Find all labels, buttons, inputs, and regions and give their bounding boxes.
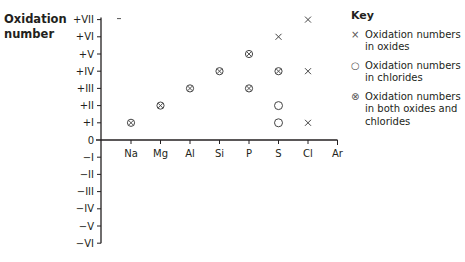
legend-item-chlorides: ○ Oxidation numbers in chlorides [351,60,465,85]
legend-label: Oxidation numbers in oxides [365,29,461,53]
y-tick-label: +V [79,49,94,60]
x-tick-label-na: Na [124,148,138,159]
circle-marker [275,102,283,110]
legend-title: Key [351,10,465,23]
y-tick-label: +VII [73,14,94,25]
y-tick-label: −V [79,221,94,232]
legend-item-both: ⊗ Oxidation numbers in both oxides and c… [351,91,465,129]
y-tick-label: −II [80,169,94,180]
x-tick-label-s: S [275,148,281,159]
legend-item-oxides: × Oxidation numbers in oxides [351,29,465,54]
legend-label: Oxidation numbers in chlorides [365,60,461,84]
x-tick-label-mg: Mg [153,148,168,159]
y-tick-label: −I [83,152,94,163]
legend-label: Oxidation numbers in both oxides and chl… [365,91,461,127]
x-tick-label-ar: Ar [332,148,344,159]
y-tick-label: +III [77,83,94,94]
x-tick-label-al: Al [185,148,195,159]
y-tick-label: −IV [76,203,94,214]
cross-marker-icon: × [351,29,363,42]
y-tick-label: +VI [76,31,94,42]
x-tick-label-si: Si [215,148,224,159]
x-tick-label-p: P [246,148,252,159]
y-tick-label: −III [77,186,94,197]
y-tick-label: +I [83,117,94,128]
circle-marker-icon: ○ [351,60,363,73]
chart-plot: +VII+VI+V+IV+III+II+I0−I−II−III−IV−V−VIN… [0,0,350,262]
y-tick-label: 0 [88,135,94,146]
legend: Key × Oxidation numbers in oxides ○ Oxid… [351,10,465,134]
circled-cross-marker-icon: ⊗ [351,91,363,104]
x-tick-label-cl: Cl [303,148,313,159]
y-tick-label: +IV [76,66,94,77]
y-tick-label: −VI [76,238,94,249]
y-tick-label: +II [80,100,94,111]
circle-marker [275,119,283,127]
